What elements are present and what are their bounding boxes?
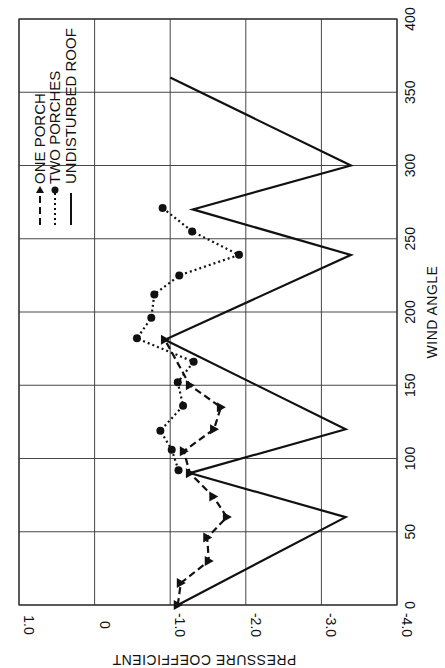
x-tick-label: 400 — [402, 7, 418, 31]
x-axis-label: WIND ANGLE — [424, 266, 440, 359]
legend-label: UNDISTURBED ROOF — [62, 28, 79, 184]
triangle-marker — [186, 380, 195, 390]
x-tick-label: 300 — [402, 154, 418, 178]
triangle-marker — [36, 186, 44, 193]
circle-marker — [188, 227, 196, 235]
series-line — [137, 208, 239, 470]
legend: ONE PORCHTWO PORCHESUNDISTURBED ROOF — [31, 28, 79, 225]
x-tick-label: 100 — [402, 447, 418, 471]
y-axis-label: PRESSURE COEFFICIENT — [112, 652, 296, 668]
circle-marker — [179, 402, 187, 410]
x-tick-label: 350 — [402, 80, 418, 104]
legend-label: TWO PORCHES — [46, 71, 63, 184]
x-tick-label: 200 — [402, 300, 418, 324]
circle-marker — [133, 334, 141, 342]
circle-marker — [159, 204, 167, 212]
x-tick-label: 150 — [402, 373, 418, 397]
circle-marker — [235, 251, 243, 259]
triangle-marker — [217, 402, 226, 412]
circle-marker — [150, 290, 158, 298]
triangle-marker — [209, 492, 218, 502]
series-line — [165, 78, 351, 605]
y-tick-label: 0 — [97, 621, 113, 629]
y-tick-label: -2.0 — [248, 613, 264, 637]
circle-marker — [156, 427, 164, 435]
pressure-coefficient-chart: 0501001502002503003504001.00-1.0-2.0-3.0… — [0, 0, 445, 668]
circle-marker — [174, 378, 182, 386]
triangle-marker — [223, 512, 232, 522]
y-tick-label: 1.0 — [21, 615, 37, 635]
y-tick-label: -1.0 — [172, 613, 188, 637]
circle-marker — [147, 314, 155, 322]
circle-marker — [175, 466, 183, 474]
series-layer — [133, 78, 351, 610]
y-tick-label: -3.0 — [323, 613, 339, 637]
x-tick-label: 50 — [402, 524, 418, 540]
y-tick-label: -4.0 — [399, 613, 415, 637]
circle-marker — [190, 358, 198, 366]
triangle-marker — [180, 446, 189, 456]
circle-marker — [52, 187, 59, 194]
circle-marker — [168, 446, 176, 454]
x-tick-label: 250 — [402, 227, 418, 251]
x-tick-label: 0 — [402, 601, 418, 609]
circle-marker — [175, 271, 183, 279]
